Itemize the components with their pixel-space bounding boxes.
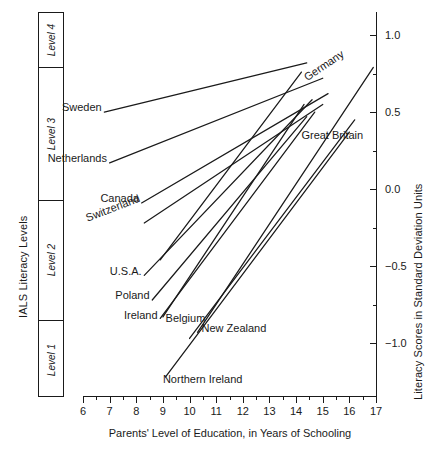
left-axis-title: IALS Literacy Levels xyxy=(17,216,29,318)
literacy-level-label: Level 3 xyxy=(46,118,57,150)
y-tick-label: −1.0 xyxy=(385,337,407,349)
y-tick-major xyxy=(370,189,377,190)
x-tick-label: 14 xyxy=(290,405,302,417)
series-line xyxy=(163,104,304,317)
x-tick-minor xyxy=(176,397,177,400)
x-tick-major xyxy=(376,397,377,403)
series-line xyxy=(144,104,322,223)
x-tick-minor xyxy=(256,397,257,400)
series-annotation: U.S.A. xyxy=(110,265,142,277)
y-tick-label: 0.5 xyxy=(385,106,400,118)
series-line xyxy=(152,117,306,300)
x-tick-major xyxy=(190,397,191,403)
series-annotation: Northern Ireland xyxy=(163,373,243,385)
y-tick-minor xyxy=(373,74,377,75)
y-tick-major xyxy=(370,112,377,113)
x-tick-minor xyxy=(230,397,231,400)
x-tick-major xyxy=(136,397,137,403)
x-tick-label: 8 xyxy=(133,405,139,417)
x-tick-major xyxy=(269,397,270,403)
y-tick-major xyxy=(370,343,377,344)
x-tick-minor xyxy=(96,397,97,400)
y-tick-major xyxy=(370,35,377,36)
x-tick-label: 15 xyxy=(317,405,329,417)
y-tick-label: 1.0 xyxy=(385,29,400,41)
series-line xyxy=(110,78,323,163)
literacy-level-band: Level 4 xyxy=(39,13,63,68)
literacy-level-column: Level 4Level 3Level 2Level 1 xyxy=(38,12,64,397)
literacy-level-band: Level 2 xyxy=(39,201,63,321)
y-tick-label: −0.5 xyxy=(385,260,407,272)
x-tick-label: 11 xyxy=(210,405,221,417)
y-tick-label: 0.0 xyxy=(385,183,400,195)
series-annotation: Great Britain xyxy=(301,129,363,141)
literacy-level-band: Level 3 xyxy=(39,68,63,200)
y-tick-minor xyxy=(373,151,377,152)
y-tick-minor xyxy=(373,305,377,306)
series-line xyxy=(166,132,350,377)
series-line xyxy=(144,100,312,276)
x-tick-minor xyxy=(309,397,310,400)
x-tick-minor xyxy=(336,397,337,400)
y-tick-minor xyxy=(373,228,377,229)
literacy-level-label: Level 4 xyxy=(46,24,57,56)
series-annotation: Sweden xyxy=(62,101,102,113)
x-tick-label: 13 xyxy=(263,405,275,417)
x-tick-label: 12 xyxy=(237,405,249,417)
literacy-level-label: Level 1 xyxy=(46,343,57,375)
right-axis-title: Literacy Scores in Standard Deviation Un… xyxy=(412,184,424,400)
chart-figure: IALS Literacy Levels Literacy Scores in … xyxy=(0,0,430,455)
literacy-level-band: Level 1 xyxy=(39,321,63,398)
series-line xyxy=(160,112,314,318)
x-axis-title: Parents' Level of Education, in Years of… xyxy=(109,427,351,439)
series-annotation: Netherlands xyxy=(48,152,107,164)
series-annotation: Poland xyxy=(115,289,149,301)
x-tick-major xyxy=(83,397,84,403)
x-tick-label: 6 xyxy=(80,405,86,417)
x-tick-minor xyxy=(150,397,151,400)
series-annotation: New Zealand xyxy=(202,322,267,334)
x-tick-label: 9 xyxy=(160,405,166,417)
x-tick-minor xyxy=(283,397,284,400)
x-tick-major xyxy=(349,397,350,403)
x-tick-label: 10 xyxy=(183,405,195,417)
x-tick-major xyxy=(216,397,217,403)
x-tick-major xyxy=(110,397,111,403)
y-tick-major xyxy=(370,266,377,267)
series-annotation: Ireland xyxy=(124,309,158,321)
x-tick-label: 17 xyxy=(370,405,382,417)
x-tick-minor xyxy=(203,397,204,400)
x-tick-minor xyxy=(123,397,124,400)
series-annotation: Belgium xyxy=(166,312,206,324)
x-tick-major xyxy=(243,397,244,403)
x-tick-label: 16 xyxy=(343,405,355,417)
literacy-level-label: Level 2 xyxy=(46,244,57,276)
x-tick-major xyxy=(163,397,164,403)
y-axis-line xyxy=(376,12,377,397)
x-tick-major xyxy=(323,397,324,403)
x-tick-minor xyxy=(363,397,364,400)
x-tick-label: 7 xyxy=(107,405,113,417)
x-tick-major xyxy=(296,397,297,403)
